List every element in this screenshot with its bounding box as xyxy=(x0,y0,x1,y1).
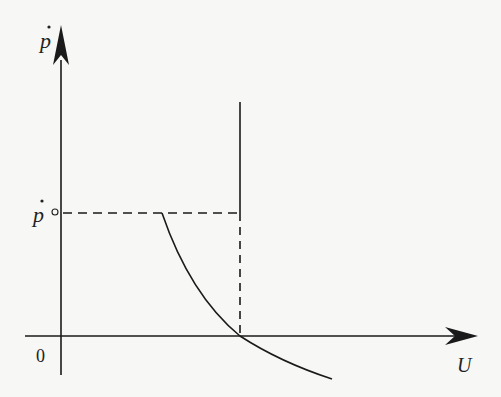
origin-label: 0 xyxy=(36,346,45,366)
y-axis-label-dot xyxy=(47,25,50,28)
x-axis-label: U xyxy=(457,354,473,376)
y-axis-label: p xyxy=(38,28,51,53)
p-level-label: p xyxy=(31,202,44,227)
p-level-marker xyxy=(52,209,58,215)
p-level-label-dot xyxy=(40,199,43,202)
phillips-curve-diagram: p p 0 U xyxy=(0,0,501,397)
y-axis-arrow-icon xyxy=(53,25,69,65)
short-run-curve xyxy=(162,213,332,379)
